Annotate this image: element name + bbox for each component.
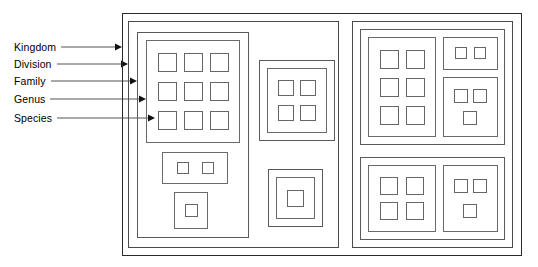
species-box (300, 80, 316, 96)
species-box (406, 106, 425, 125)
species-box (473, 179, 487, 193)
species-box (184, 111, 203, 130)
species-box (278, 80, 294, 96)
genus-box (443, 165, 498, 232)
species-box (202, 162, 214, 174)
species-box (454, 179, 468, 193)
species-box (278, 105, 294, 121)
species-box (158, 82, 177, 101)
species-box (185, 204, 198, 217)
species-box (287, 190, 304, 207)
species-box (380, 202, 398, 220)
species-box (300, 105, 316, 121)
level-label-family: Family (14, 76, 46, 87)
species-box (463, 204, 477, 218)
level-label-list: Kingdom Division Family Genus Species (0, 0, 118, 267)
species-box (184, 82, 203, 101)
genus-box (162, 152, 228, 184)
genus-box (368, 37, 436, 137)
level-label-species: Species (14, 113, 52, 124)
species-box (455, 47, 467, 59)
level-label-division: Division (14, 59, 52, 70)
species-box (210, 53, 229, 72)
species-box (380, 177, 398, 195)
genus-box (443, 77, 498, 137)
species-box (210, 82, 229, 101)
genus-box (267, 68, 327, 133)
species-box (177, 162, 189, 174)
species-box (184, 53, 203, 72)
species-box (380, 78, 399, 97)
genus-box (368, 165, 436, 232)
taxonomy-diagram: Kingdom Division Family Genus Species (0, 0, 538, 267)
species-box (210, 111, 229, 130)
species-box (406, 50, 425, 69)
species-box (473, 89, 487, 103)
species-box (463, 111, 477, 125)
species-box (454, 89, 468, 103)
level-label-genus: Genus (14, 94, 45, 105)
species-box (158, 111, 177, 130)
species-box (380, 50, 399, 69)
species-box (380, 106, 399, 125)
genus-box (443, 37, 498, 70)
species-box (406, 177, 424, 195)
level-label-kingdom: Kingdom (14, 42, 56, 53)
species-box (406, 202, 424, 220)
species-box (158, 53, 177, 72)
species-box (406, 78, 425, 97)
species-box (474, 47, 486, 59)
